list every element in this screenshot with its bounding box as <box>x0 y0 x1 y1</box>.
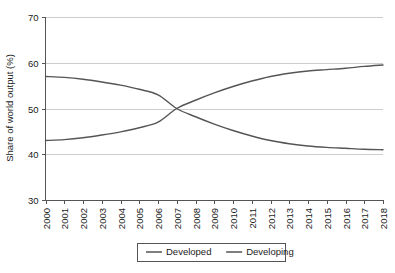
x-tick-label: 2016 <box>341 208 352 229</box>
y-tick-label: 30 <box>28 195 39 206</box>
x-tick-label: 2007 <box>172 208 183 229</box>
x-tick-label: 2008 <box>191 208 202 229</box>
x-tick-label: 2005 <box>134 208 145 229</box>
x-tick-label: 2012 <box>266 208 277 229</box>
y-tick-label: 70 <box>28 12 39 23</box>
x-tick-label: 2009 <box>209 208 220 229</box>
x-tick-label: 2000 <box>41 208 52 229</box>
y-tick-label: 60 <box>28 58 39 69</box>
chart-figure: 3040506070 20002001200220032004200520062… <box>0 0 395 273</box>
y-tick-label: 50 <box>28 104 39 115</box>
legend-label-developing: Developing <box>246 246 294 257</box>
x-tick-label: 2002 <box>78 208 89 229</box>
x-tick-label: 2004 <box>116 208 127 229</box>
x-tick-label: 2006 <box>153 208 164 229</box>
y-tick-label: 40 <box>28 149 39 160</box>
x-tick-label: 2013 <box>284 208 295 229</box>
chart-background <box>0 0 395 273</box>
x-tick-label: 2003 <box>97 208 108 229</box>
y-axis-title: Share of world output (%) <box>4 54 15 162</box>
x-tick-label: 2010 <box>228 208 239 229</box>
legend-label-developed: Developed <box>166 246 211 257</box>
x-tick-label: 2018 <box>378 208 389 229</box>
chart-legend: DevelopedDeveloping <box>138 244 294 262</box>
x-tick-label: 2001 <box>59 208 70 229</box>
line-chart: 3040506070 20002001200220032004200520062… <box>0 0 395 273</box>
x-tick-label: 2017 <box>359 208 370 229</box>
x-tick-label: 2015 <box>322 208 333 229</box>
x-tick-label: 2014 <box>303 208 314 229</box>
x-tick-label: 2011 <box>247 208 258 228</box>
